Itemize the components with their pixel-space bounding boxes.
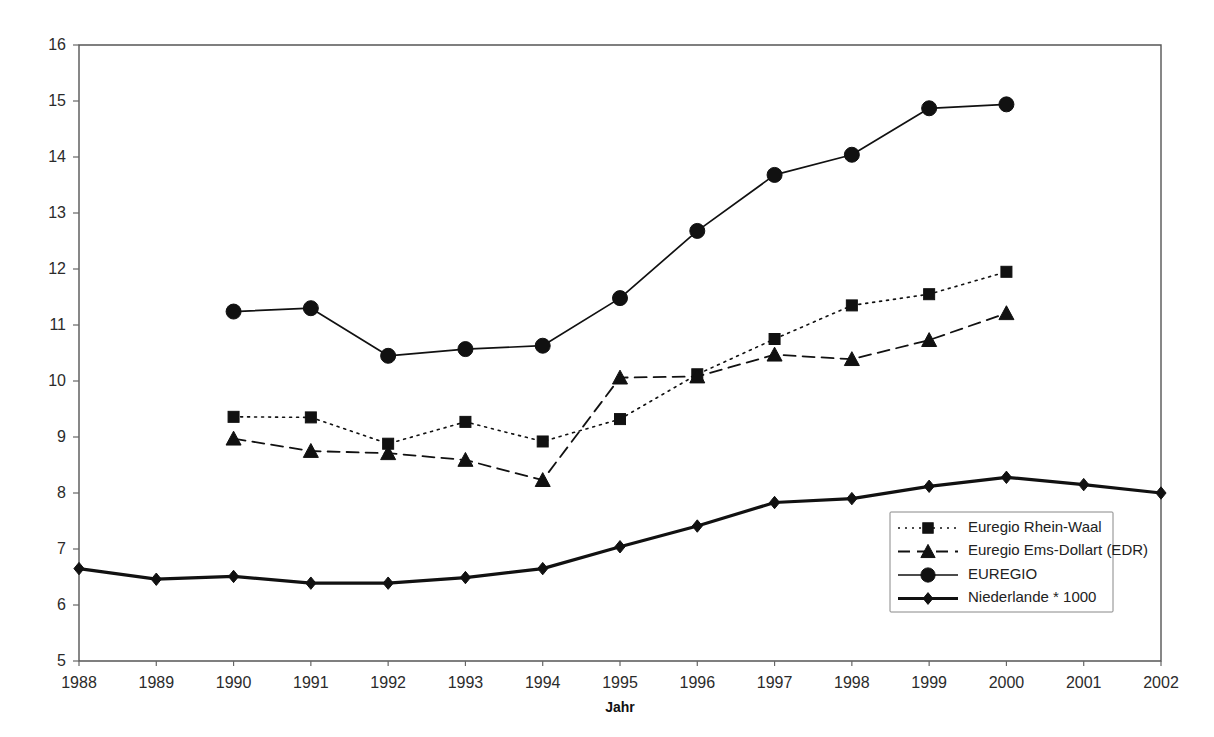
square-marker	[537, 436, 548, 447]
square-marker	[846, 300, 857, 311]
x-tick-label: 1994	[525, 674, 561, 691]
x-axis-title: Jahr	[605, 699, 635, 715]
y-tick-label: 16	[48, 36, 66, 53]
x-tick-label: 1992	[370, 674, 406, 691]
circle-marker	[690, 223, 705, 238]
x-tick-label: 1997	[757, 674, 793, 691]
y-tick-label: 12	[48, 260, 66, 277]
circle-marker	[767, 167, 782, 182]
legend-label: EUREGIO	[968, 565, 1037, 582]
x-tick-label: 1991	[293, 674, 329, 691]
x-tick-label: 1989	[138, 674, 174, 691]
square-marker	[769, 334, 780, 345]
y-tick-label: 5	[57, 652, 66, 669]
x-tick-label: 1995	[602, 674, 638, 691]
x-tick-label: 1996	[679, 674, 715, 691]
circle-marker	[226, 304, 241, 319]
legend-label: Niederlande * 1000	[968, 588, 1096, 605]
y-tick-label: 11	[49, 316, 66, 333]
circle-marker	[458, 342, 473, 357]
y-tick-label: 6	[57, 596, 66, 613]
x-tick-label: 1988	[61, 674, 97, 691]
x-tick-label: 2002	[1143, 674, 1179, 691]
square-marker	[305, 412, 316, 423]
x-tick-label: 1990	[216, 674, 252, 691]
circle-marker	[922, 101, 937, 116]
y-tick-label: 7	[57, 540, 66, 557]
square-marker	[923, 523, 933, 533]
square-marker	[924, 289, 935, 300]
square-marker	[1001, 266, 1012, 277]
legend-label: Euregio Rhein-Waal	[968, 518, 1102, 535]
circle-marker	[844, 147, 859, 162]
x-tick-label: 2000	[989, 674, 1025, 691]
y-tick-label: 8	[57, 484, 66, 501]
circle-marker	[999, 97, 1014, 112]
y-tick-label: 14	[48, 148, 66, 165]
square-marker	[460, 416, 471, 427]
chart-background	[0, 0, 1214, 737]
chart-legend[interactable]: Euregio Rhein-WaalEuregio Ems-Dollart (E…	[890, 512, 1148, 612]
line-chart: 5678910111213141516 19881989199019911992…	[0, 0, 1214, 737]
y-tick-label: 15	[48, 92, 66, 109]
y-tick-label: 9	[57, 428, 66, 445]
legend-label: Euregio Ems-Dollart (EDR)	[968, 541, 1148, 558]
chart-container: 5678910111213141516 19881989199019911992…	[0, 0, 1214, 737]
square-marker	[228, 411, 239, 422]
y-tick-label: 13	[48, 204, 66, 221]
x-tick-label: 1998	[834, 674, 870, 691]
square-marker	[615, 414, 626, 425]
circle-marker	[303, 301, 318, 316]
x-tick-label: 1999	[911, 674, 947, 691]
circle-marker	[381, 348, 396, 363]
x-tick-label: 1993	[448, 674, 484, 691]
circle-marker	[535, 338, 550, 353]
y-tick-label: 10	[48, 372, 66, 389]
x-tick-label: 2001	[1066, 674, 1102, 691]
circle-marker	[921, 568, 935, 582]
circle-marker	[613, 291, 628, 306]
